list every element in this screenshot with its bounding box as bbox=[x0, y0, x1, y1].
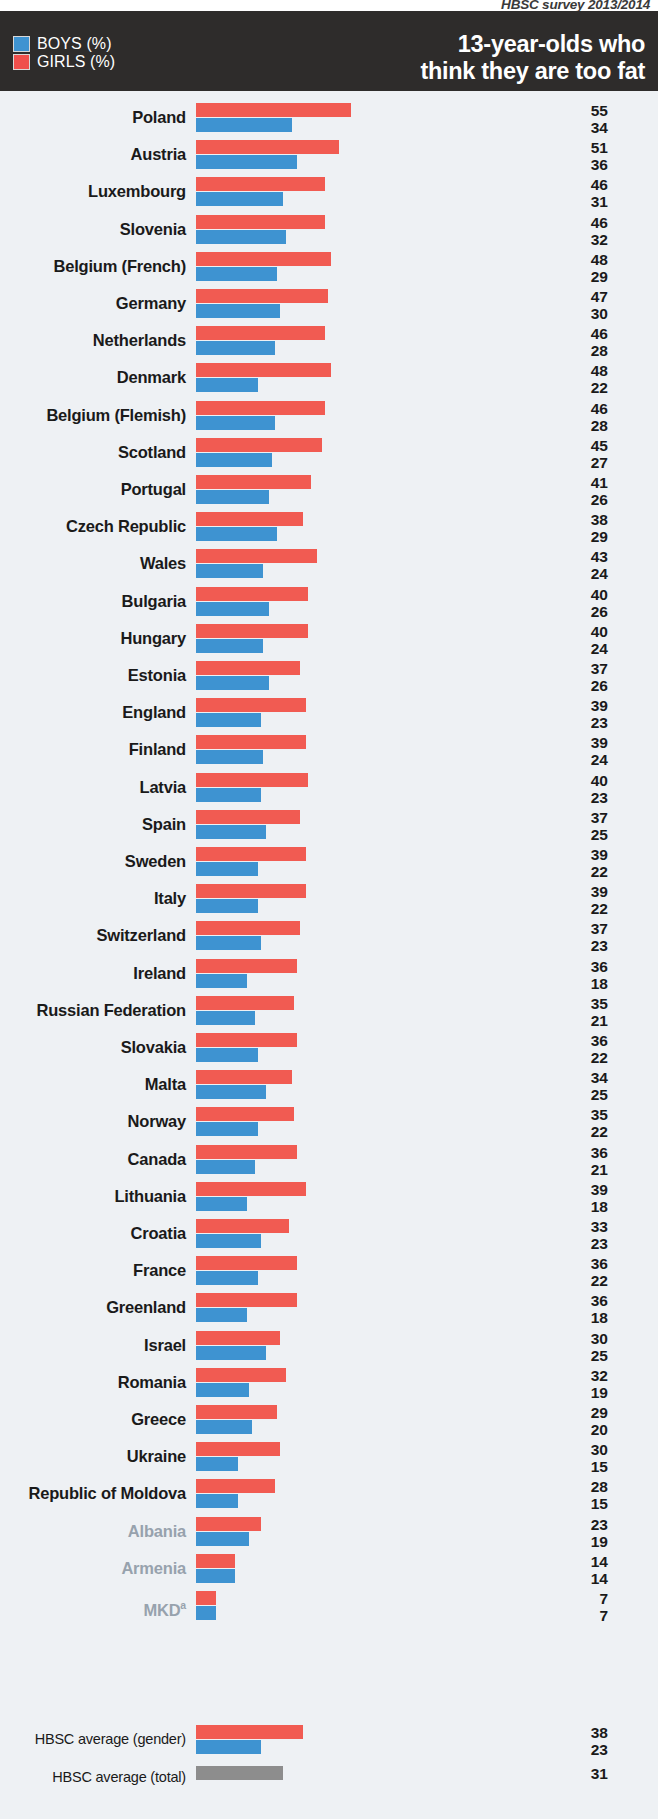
row-label-scotland: Scotland bbox=[4, 434, 196, 471]
chart-row: Poland5534 bbox=[0, 99, 658, 136]
bar-girls bbox=[196, 661, 300, 675]
chart-row: Slovakia3622 bbox=[0, 1029, 658, 1066]
chart-row: Belgium (French)4829 bbox=[0, 248, 658, 285]
row-label-poland: Poland bbox=[4, 99, 196, 136]
bar-boys bbox=[196, 1606, 216, 1620]
row-label-malta: Malta bbox=[4, 1066, 196, 1103]
row-bars bbox=[196, 1107, 294, 1136]
bar-boys bbox=[196, 1234, 261, 1248]
value-boys: 26 bbox=[520, 491, 608, 508]
legend-label-boys: BOYS (%) bbox=[37, 35, 112, 53]
hbsc-average-gender-values: 3823 bbox=[520, 1721, 608, 1758]
bar-girls bbox=[196, 475, 311, 489]
chart-row: Finland3924 bbox=[0, 731, 658, 768]
row-values: 2920 bbox=[520, 1401, 608, 1438]
row-label-denmark: Denmark bbox=[4, 359, 196, 396]
value-boys: 22 bbox=[520, 900, 608, 917]
bar-girls bbox=[196, 438, 322, 452]
value-boys: 29 bbox=[520, 528, 608, 545]
bar-boys bbox=[196, 230, 286, 244]
row-label-mkd: MKDa bbox=[4, 1587, 196, 1629]
bar-girls bbox=[196, 698, 306, 712]
row-label-luxembourg: Luxembourg bbox=[4, 173, 196, 210]
page-title: 13-year-olds who think they are too fat bbox=[420, 31, 645, 85]
hbsc-average-total-label: HBSC average (total) bbox=[4, 1759, 196, 1796]
bar-girls bbox=[196, 1368, 286, 1382]
chart-row: Albania2319 bbox=[0, 1513, 658, 1550]
value-girls: 43 bbox=[520, 548, 608, 565]
bar-boys bbox=[196, 825, 266, 839]
row-label-norway: Norway bbox=[4, 1103, 196, 1140]
row-bars bbox=[196, 140, 339, 169]
bar-girls bbox=[196, 1517, 261, 1531]
bar-boys bbox=[196, 118, 292, 132]
row-label-germany: Germany bbox=[4, 285, 196, 322]
legend-label-girls: GIRLS (%) bbox=[37, 53, 115, 71]
row-bars bbox=[196, 103, 351, 132]
value-total: 31 bbox=[520, 1765, 608, 1782]
value-boys: 14 bbox=[520, 1570, 608, 1587]
chart-row: Estonia3726 bbox=[0, 657, 658, 694]
bar-girls bbox=[196, 587, 308, 601]
bar-girls bbox=[196, 1442, 280, 1456]
row-values: 4527 bbox=[520, 434, 608, 471]
value-girls: 32 bbox=[520, 1367, 608, 1384]
bar-boys bbox=[196, 1346, 266, 1360]
row-values: 4631 bbox=[520, 173, 608, 210]
row-bars bbox=[196, 810, 300, 839]
value-boys: 19 bbox=[520, 1533, 608, 1550]
chart-row: Wales4324 bbox=[0, 545, 658, 582]
bar-girls bbox=[196, 177, 325, 191]
value-girls: 34 bbox=[520, 1069, 608, 1086]
row-values: 4829 bbox=[520, 248, 608, 285]
chart-row: Denmark4822 bbox=[0, 359, 658, 396]
value-girls: 37 bbox=[520, 920, 608, 937]
row-values: 4730 bbox=[520, 285, 608, 322]
row-label-england: England bbox=[4, 694, 196, 731]
bar-total bbox=[196, 1766, 283, 1780]
chart-row: Bulgaria4026 bbox=[0, 583, 658, 620]
chart-row: MKDa77 bbox=[0, 1587, 658, 1624]
value-boys: 24 bbox=[520, 751, 608, 768]
value-girls: 40 bbox=[520, 772, 608, 789]
value-boys: 36 bbox=[520, 156, 608, 173]
value-boys: 7 bbox=[520, 1607, 608, 1624]
bar-boys bbox=[196, 1308, 247, 1322]
bar-boys bbox=[196, 1569, 235, 1583]
row-values: 3622 bbox=[520, 1252, 608, 1289]
bar-girls bbox=[196, 921, 300, 935]
row-values: 3922 bbox=[520, 880, 608, 917]
row-values: 2815 bbox=[520, 1475, 608, 1512]
bar-boys bbox=[196, 341, 275, 355]
row-values: 3924 bbox=[520, 731, 608, 768]
row-label-france: France bbox=[4, 1252, 196, 1289]
value-boys: 24 bbox=[520, 565, 608, 582]
bar-boys bbox=[196, 192, 283, 206]
row-label-canada: Canada bbox=[4, 1141, 196, 1178]
value-girls: 46 bbox=[520, 325, 608, 342]
chart-row: Spain3725 bbox=[0, 806, 658, 843]
bar-girls bbox=[196, 1725, 303, 1739]
row-values: 3219 bbox=[520, 1364, 608, 1401]
row-label-slovenia: Slovenia bbox=[4, 211, 196, 248]
bar-boys bbox=[196, 862, 258, 876]
row-bars bbox=[196, 512, 303, 541]
bar-girls bbox=[196, 773, 308, 787]
row-values: 3521 bbox=[520, 992, 608, 1029]
row-label-lithuania: Lithuania bbox=[4, 1178, 196, 1215]
value-boys: 28 bbox=[520, 417, 608, 434]
value-boys: 22 bbox=[520, 1049, 608, 1066]
bar-boys bbox=[196, 416, 275, 430]
value-boys: 29 bbox=[520, 268, 608, 285]
bar-girls bbox=[196, 363, 331, 377]
bar-girls bbox=[196, 810, 300, 824]
row-label-italy: Italy bbox=[4, 880, 196, 917]
row-values: 3622 bbox=[520, 1029, 608, 1066]
bar-boys bbox=[196, 1420, 252, 1434]
bar-girls bbox=[196, 1070, 292, 1084]
bar-boys bbox=[196, 304, 280, 318]
bar-girls bbox=[196, 996, 294, 1010]
bar-boys bbox=[196, 974, 247, 988]
bar-girls bbox=[196, 1331, 280, 1345]
row-bars bbox=[196, 326, 325, 355]
